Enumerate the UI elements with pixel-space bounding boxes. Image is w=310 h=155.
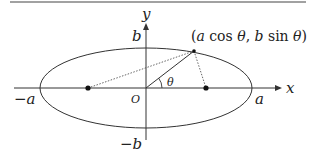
- focal-line-left: [88, 51, 194, 88]
- tick-pos-b: b: [132, 27, 142, 45]
- focal-line-right: [194, 51, 206, 88]
- tick-pos-a: a: [255, 90, 264, 108]
- angle-label: θ: [167, 76, 174, 89]
- x-axis-arrow-icon: [275, 85, 282, 91]
- point-label: (a cos θ, b sin θ): [191, 28, 307, 44]
- tick-neg-a: −a: [14, 90, 36, 108]
- ellipse-diagram: y x O b −b −a a θ (a cos θ, b sin θ): [0, 0, 310, 155]
- ellipse-point: [192, 49, 196, 53]
- tick-neg-b: −b: [120, 135, 142, 153]
- y-axis-arrow-icon: [143, 23, 149, 30]
- focus-left: [85, 85, 90, 90]
- angle-arc: [159, 78, 162, 88]
- y-axis-label: y: [141, 5, 151, 23]
- origin-label: O: [131, 93, 140, 106]
- x-axis-label: x: [286, 79, 295, 97]
- focus-right: [203, 85, 208, 90]
